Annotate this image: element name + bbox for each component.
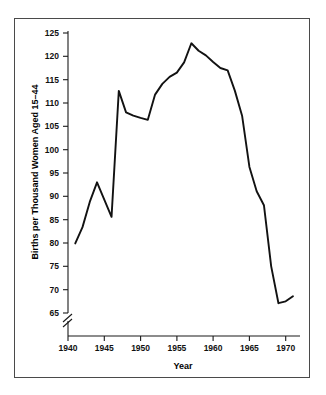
y-tick-label-110: 110 xyxy=(45,98,59,108)
x-tick-label-1970: 1970 xyxy=(276,343,295,353)
line-chart-plot: 125 120 115 110 105 100 95 90 85 80 75 7… xyxy=(0,0,326,395)
y-tick-label-95: 95 xyxy=(50,168,60,178)
y-axis-title: Births per Thousand Women Aged 15–44 xyxy=(30,84,40,259)
y-tick-label-70: 70 xyxy=(50,285,60,295)
x-axis-title: Year xyxy=(173,361,193,371)
x-tick-label-1950: 1950 xyxy=(131,343,150,353)
x-tick-label-1955: 1955 xyxy=(167,343,186,353)
y-tick-label-100: 100 xyxy=(45,145,59,155)
y-tick-label-90: 90 xyxy=(50,191,60,201)
y-tick-marks xyxy=(63,33,68,313)
y-tick-label-115: 115 xyxy=(45,75,59,85)
y-tick-label-125: 125 xyxy=(45,28,59,38)
y-tick-label-80: 80 xyxy=(50,238,60,248)
x-tick-label-1960: 1960 xyxy=(204,343,223,353)
x-tick-label-1940: 1940 xyxy=(59,343,78,353)
birth-rate-line-series xyxy=(75,43,293,303)
x-tick-label-1945: 1945 xyxy=(95,343,114,353)
y-tick-label-65: 65 xyxy=(50,308,60,318)
x-tick-marks xyxy=(68,336,286,341)
chart-figure: 125 120 115 110 105 100 95 90 85 80 75 7… xyxy=(0,0,326,395)
x-tick-label-1965: 1965 xyxy=(240,343,259,353)
y-tick-label-75: 75 xyxy=(50,261,60,271)
y-tick-label-120: 120 xyxy=(45,51,59,61)
y-tick-label-85: 85 xyxy=(50,215,60,225)
y-tick-label-105: 105 xyxy=(45,121,59,131)
